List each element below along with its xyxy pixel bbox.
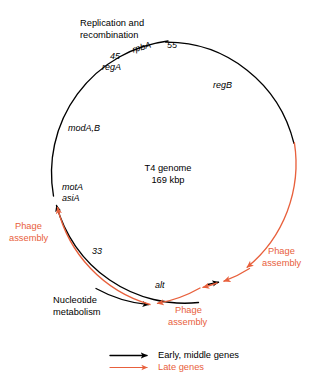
arc-early-middle-lowerleft-33 — [57, 206, 199, 304]
label-phage-assembly-bottom-line2: assembly — [168, 317, 207, 328]
label-replication-line1: Replication and — [80, 18, 144, 29]
label-nucleotide-line1: Nucleotide — [53, 295, 97, 306]
label-phage-assembly-left-line2: assembly — [9, 233, 48, 244]
gene-label-regB: regB — [213, 80, 232, 91]
center-label-genome: T4 genome — [118, 163, 218, 174]
label-replication-line2: recombination — [80, 30, 138, 41]
arc-late-right-lower — [224, 269, 250, 282]
label-nucleotide-line2: metabolism — [53, 307, 101, 318]
arc-early-middle-right — [166, 42, 294, 143]
legend-label-late: Late genes — [158, 362, 204, 373]
gene-label-alt: alt — [155, 280, 165, 291]
legend-label-early-middle: Early, middle genes — [158, 350, 239, 361]
gene-label-55: 55 — [167, 40, 177, 51]
gene-label-33: 33 — [92, 246, 102, 257]
label-phage-assembly-left-line1: Phage — [15, 221, 42, 232]
arc-late-lowerleft — [58, 208, 151, 305]
gene-label-modAB: modA,B — [68, 123, 100, 134]
diagram-canvas — [0, 0, 323, 378]
center-label-size: 169 kbp — [118, 175, 218, 186]
label-phage-assembly-right-line1: Phage — [268, 246, 295, 257]
arc-early-middle-alt — [96, 289, 149, 305]
gene-label-motA: motA — [62, 182, 83, 193]
t4-genome-diagram: Replication and recombination regA 45 rp… — [0, 0, 323, 378]
label-phage-assembly-right-line2: assembly — [262, 258, 301, 269]
label-phage-assembly-bottom-line1: Phage — [175, 305, 202, 316]
gene-label-asiA: asiA — [62, 193, 80, 204]
gene-label-45: 45 — [110, 51, 120, 62]
gene-label-regA: regA — [102, 62, 121, 73]
